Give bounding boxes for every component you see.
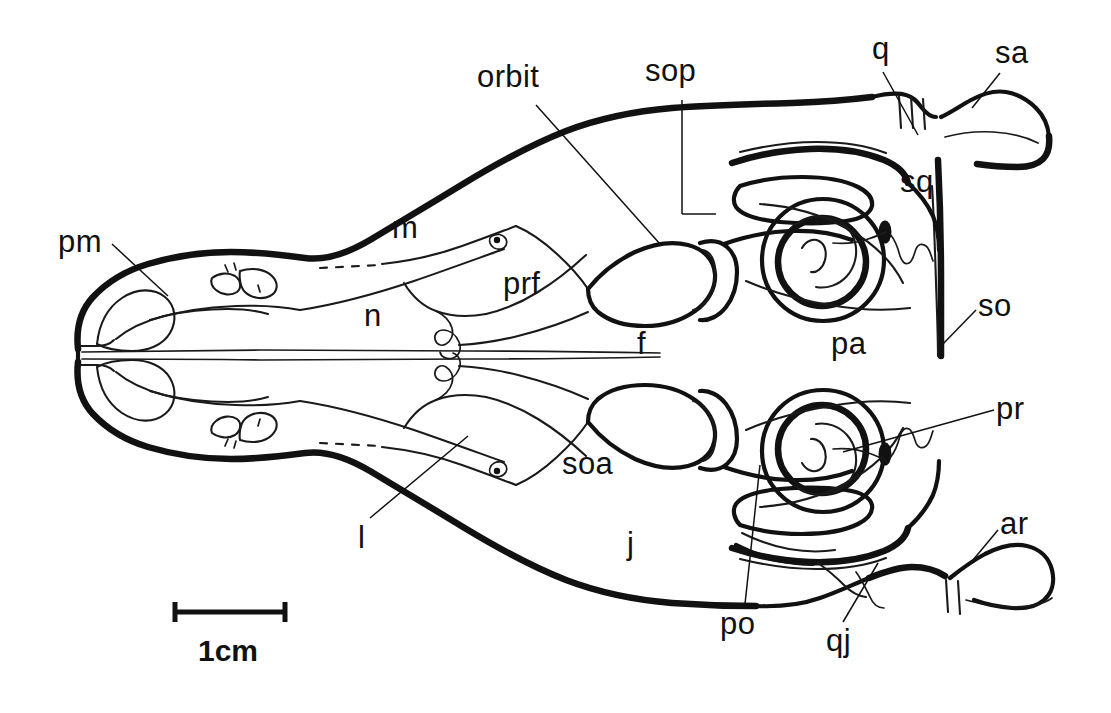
skull-outline-lower — [78, 362, 1054, 608]
figure-root: pm orbit sop q sa sq m prf n f pa so pr … — [0, 0, 1111, 713]
label-so: so — [978, 290, 1012, 321]
label-soa: soa — [562, 448, 613, 479]
label-po: po — [720, 608, 755, 639]
label-f: f — [637, 328, 646, 359]
scale-bar — [175, 602, 285, 622]
label-q: q — [872, 33, 890, 64]
label-sop: sop — [645, 55, 696, 86]
leader-pm — [112, 244, 168, 296]
leader-qj — [843, 563, 878, 622]
label-j: j — [627, 528, 634, 559]
skull-outline-upper — [78, 91, 1050, 349]
label-sa: sa — [995, 37, 1029, 68]
scale-bar-caption: 1cm — [198, 636, 258, 666]
label-qj: qj — [826, 625, 851, 656]
label-pr: pr — [996, 393, 1024, 424]
label-pa: pa — [831, 328, 866, 359]
label-prf: prf — [503, 268, 540, 299]
label-n: n — [364, 300, 382, 331]
label-orbit: orbit — [477, 61, 539, 92]
suture-network-upper — [116, 96, 1038, 359]
label-pm: pm — [58, 226, 102, 257]
leader-so — [940, 310, 976, 347]
label-sq: sq — [900, 166, 934, 197]
label-m: m — [392, 212, 418, 243]
label-ar: ar — [1000, 508, 1028, 539]
label-l: l — [358, 522, 365, 553]
skull-drawing — [0, 0, 1111, 713]
leader-orbit — [536, 105, 660, 244]
suture-network-lower — [116, 353, 1052, 614]
